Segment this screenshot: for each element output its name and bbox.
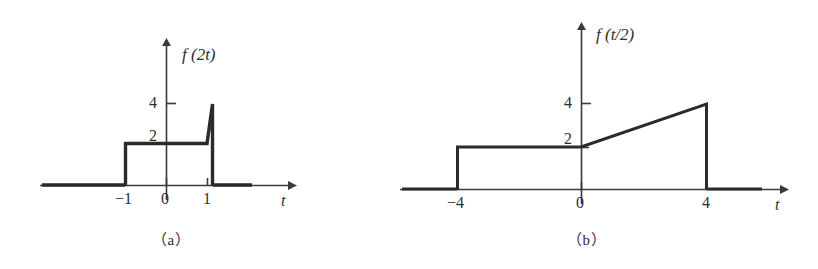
chart-a-svg xyxy=(0,0,410,269)
chart-a-y-axis xyxy=(162,38,171,200)
chart-a-xtick-0: 0 xyxy=(161,191,169,207)
chart-a-y-ticks xyxy=(167,104,177,144)
chart-panel-b: f (t/2) 4 2 −4 0 4 t （b） xyxy=(400,0,818,269)
chart-a-xtick-1: 1 xyxy=(203,191,211,207)
chart-a-ytick-4: 4 xyxy=(149,95,157,111)
chart-a-x-ticks xyxy=(126,178,208,186)
chart-a-ytick-2: 2 xyxy=(149,128,157,144)
chart-panel-a: f (2t) 4 2 −1 0 1 t （a） xyxy=(0,0,410,269)
chart-b-function-label: f (t/2) xyxy=(596,26,634,43)
chart-a-x-axis-name: t xyxy=(281,193,285,209)
chart-a-function-label: f (2t) xyxy=(182,46,216,63)
chart-b-x-ticks xyxy=(458,182,707,190)
chart-a-caption: （a） xyxy=(152,233,190,248)
chart-a-xtick-minus1: −1 xyxy=(115,191,132,207)
chart-b-x-axis-name: t xyxy=(775,197,779,213)
chart-b-xtick-0: 0 xyxy=(576,195,584,211)
chart-b-caption: （b） xyxy=(567,233,606,248)
chart-b-ytick-2: 2 xyxy=(564,131,572,147)
chart-b-xtick-minus4: −4 xyxy=(447,195,464,211)
figure-root: f (2t) 4 2 −1 0 1 t （a） xyxy=(0,0,818,269)
chart-b-y-ticks xyxy=(582,104,592,148)
chart-b-xtick-4: 4 xyxy=(702,195,710,211)
chart-b-y-axis xyxy=(577,22,586,204)
chart-a-signal xyxy=(42,104,252,186)
chart-b-ytick-4: 4 xyxy=(564,95,572,111)
